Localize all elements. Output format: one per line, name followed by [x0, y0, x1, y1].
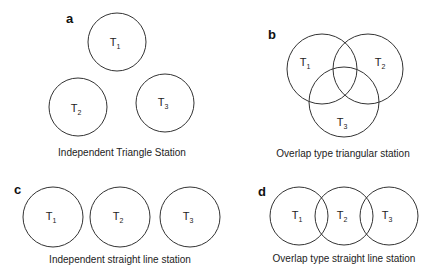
- panel-b: b T1 T2 T3 Overlap type triangular stati…: [268, 27, 410, 159]
- panel-letter: c: [14, 182, 21, 197]
- panel-a: a T1 T2 T3 Independent Triangle Station: [49, 11, 194, 158]
- station-label-t3: T3: [183, 210, 194, 224]
- station-label-t2: T2: [375, 56, 386, 70]
- panel-caption: Overlap type triangular station: [276, 148, 409, 159]
- panel-letter: b: [268, 27, 276, 42]
- station-label-t2: T2: [113, 210, 124, 224]
- station-circle-t2: [49, 78, 107, 136]
- station-label-t2: T2: [71, 102, 82, 116]
- station-circle-t1: [287, 34, 357, 104]
- station-label-t2: T2: [337, 209, 348, 223]
- station-label-t3: T3: [158, 96, 169, 110]
- station-label-t1: T1: [46, 210, 57, 224]
- station-label-t3: T3: [382, 209, 393, 223]
- panel-caption: Independent Triangle Station: [58, 147, 186, 158]
- panel-caption: Independent straight line station: [49, 254, 191, 265]
- station-label-t3: T3: [337, 116, 348, 130]
- panel-c: c T1 T2 T3 Independent straight line sta…: [14, 182, 220, 265]
- panel-letter: d: [258, 184, 266, 199]
- station-label-t1: T1: [292, 209, 303, 223]
- station-layout-diagram: a T1 T2 T3 Independent Triangle Station …: [0, 0, 428, 276]
- station-label-t1: T1: [300, 56, 311, 70]
- panel-caption: Overlap type straight line station: [273, 253, 416, 264]
- station-label-t1: T1: [110, 36, 121, 50]
- panel-letter: a: [66, 11, 74, 26]
- panel-d: d T1 T2 T3 Overlap type straight line st…: [258, 184, 418, 264]
- station-circle-t1: [88, 13, 146, 71]
- station-circle-t2: [333, 34, 403, 104]
